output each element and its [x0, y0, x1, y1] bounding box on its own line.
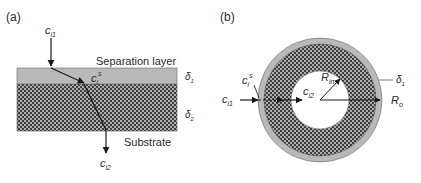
delta1-label: δ1	[185, 71, 194, 84]
panel-b-label: (b)	[220, 10, 235, 24]
r-o-label: Ro	[391, 94, 403, 108]
diagram-canvas: (a) ci1 Separation layer cis δ1 δ2 Subst…	[0, 0, 421, 183]
separation-layer-label: Separation layer	[96, 55, 176, 67]
panel-a: (a) ci1 Separation layer cis δ1 δ2 Subst…	[6, 10, 195, 171]
panel-a-label: (a)	[6, 10, 21, 24]
panel-b: (b) cis ci1 ci2 Rin δ1 Ro	[220, 10, 405, 162]
delta2-label: δ2	[185, 109, 195, 122]
c-i2-label: ci2	[100, 157, 111, 171]
substrate-layer	[17, 84, 177, 131]
c-is-label: cis	[242, 72, 253, 88]
c-i1-label: ci1	[45, 24, 56, 38]
delta1-label: δ1	[396, 74, 405, 87]
substrate-label: Substrate	[124, 136, 171, 148]
c-is-pointer	[254, 85, 259, 98]
c-i1-label: ci1	[222, 93, 233, 107]
